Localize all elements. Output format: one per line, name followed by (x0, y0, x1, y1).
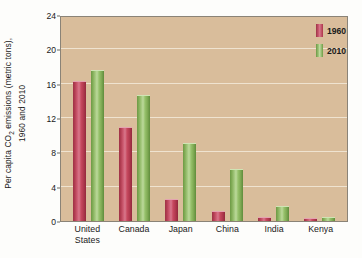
x-tick-label-line: Canada (111, 224, 158, 235)
legend-item: 2010 (316, 44, 346, 57)
bar-2010 (183, 143, 196, 221)
legend: 19602010 (316, 24, 346, 57)
y-tick-label: 16 (46, 80, 56, 90)
x-tick-label-line: United (64, 224, 111, 235)
plot-area (60, 16, 348, 222)
bar-2010 (230, 169, 243, 222)
y-tick-label: 0 (51, 217, 56, 227)
bar-1960 (212, 211, 225, 221)
x-tick-label-line: India (251, 224, 298, 235)
bar-group (250, 17, 296, 221)
bar-2010 (276, 206, 289, 221)
bar-1960 (165, 199, 178, 221)
x-tick-label: Kenya (297, 224, 344, 246)
bar-groups (61, 17, 347, 221)
x-tick-label-line: Japan (157, 224, 204, 235)
bar-group (65, 17, 111, 221)
y-axis-label-part1: Per capita CO (3, 134, 13, 188)
x-axis-labels: UnitedStatesCanadaJapanChinaIndiaKenya (60, 224, 348, 246)
chart-figure: Per capita CO2 emissions (metric tons), … (0, 0, 362, 258)
legend-swatch (316, 44, 323, 57)
y-axis-label: Per capita CO2 emissions (metric tons), … (0, 0, 30, 226)
bar-2010 (137, 95, 150, 221)
bar-group (204, 17, 250, 221)
x-tick-label: India (251, 224, 298, 246)
x-tick-label-line: Kenya (297, 224, 344, 235)
legend-item: 1960 (316, 24, 346, 37)
x-tick-label-line: China (204, 224, 251, 235)
bar-1960 (73, 81, 86, 221)
y-tick-label: 8 (51, 148, 56, 158)
y-tick-label: 12 (46, 114, 56, 124)
y-axis-ticks: 04812162024 (30, 0, 60, 258)
bar-1960 (119, 127, 132, 221)
y-axis-label-part2: emissions (metric tons), (3, 38, 13, 131)
y-axis-label-subscript: 2 (7, 131, 14, 135)
x-tick-label: UnitedStates (64, 224, 111, 246)
y-tick-label: 24 (46, 11, 56, 21)
legend-label: 2010 (327, 46, 346, 56)
bar-2010 (322, 217, 335, 221)
legend-label: 1960 (327, 26, 346, 36)
legend-swatch (316, 24, 323, 37)
x-tick-label: Canada (111, 224, 158, 246)
y-tick-label: 4 (51, 183, 56, 193)
y-tick-label: 20 (46, 45, 56, 55)
x-tick-label: Japan (157, 224, 204, 246)
bar-group (111, 17, 157, 221)
x-tick-label: China (204, 224, 251, 246)
y-axis-label-line2: 1960 and 2010 (17, 38, 28, 189)
x-tick-label-line: States (64, 235, 111, 246)
bar-1960 (258, 217, 271, 221)
bar-group (158, 17, 204, 221)
bar-2010 (91, 70, 104, 221)
bar-1960 (304, 218, 317, 221)
